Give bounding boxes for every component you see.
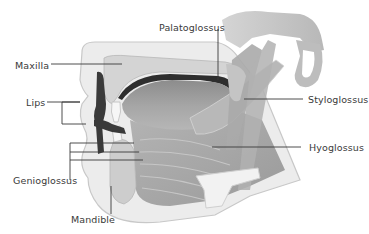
mandible-bone (110, 139, 136, 204)
anatomy-illustration (0, 0, 369, 234)
label-hyoglossus: Hyoglossus (309, 142, 364, 153)
label-styloglossus: Styloglossus (308, 94, 368, 105)
label-maxilla: Maxilla (15, 60, 49, 71)
label-lips: Lips (26, 97, 45, 108)
upper-incisor (111, 102, 120, 122)
label-mandible: Mandible (71, 214, 115, 225)
label-genioglossus: Genioglossus (13, 175, 77, 186)
label-palatoglossus: Palatoglossus (159, 22, 225, 33)
tongue-anatomy-diagram: Palatoglossus Maxilla Lips Styloglossus … (0, 0, 369, 234)
